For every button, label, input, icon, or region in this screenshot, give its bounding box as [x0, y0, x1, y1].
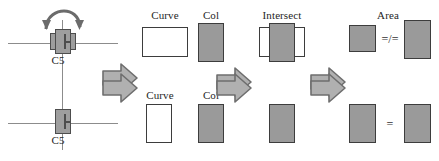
- intersect-col-rect-top: [269, 23, 295, 62]
- area-left-rect-bottom: [349, 104, 376, 143]
- node-label-c5-bottom: C5: [51, 135, 64, 146]
- area-right-rect-top: [404, 20, 431, 59]
- step-label-col-top: Col: [203, 10, 219, 21]
- block-arrow-right-bottom-1: [101, 72, 139, 104]
- block-arrow-right-bottom-3: [309, 72, 347, 104]
- curve-rect-bottom: [146, 104, 172, 143]
- figure-canvas: C5 Curve Col Intersect Area =/= C5 Curve…: [0, 0, 439, 161]
- node-tick-horizontal-top: [64, 41, 71, 43]
- area-operator-top: =/=: [382, 33, 399, 45]
- step-label-curve-bottom: Curve: [146, 90, 173, 101]
- intersect-rect-bottom: [269, 104, 295, 143]
- area-left-rect-top: [349, 25, 376, 52]
- col-rect-top: [198, 23, 224, 62]
- step-label-curve-top: Curve: [151, 10, 178, 21]
- area-right-rect-bottom: [404, 104, 431, 143]
- step-label-intersect-top: Intersect: [263, 10, 302, 21]
- block-arrow-right-bottom-2: [215, 72, 253, 104]
- curve-rect-top: [142, 27, 188, 57]
- node-tick-horizontal-bottom: [64, 121, 71, 123]
- col-rect-bottom: [198, 104, 224, 143]
- step-label-area-top: Area: [377, 10, 399, 21]
- rotation-arrow-icon: [42, 9, 84, 31]
- node-label-c5-top: C5: [51, 55, 64, 66]
- area-operator-bottom: =: [387, 118, 394, 130]
